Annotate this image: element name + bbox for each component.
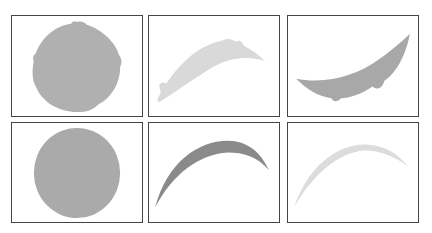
panel-3-rough-bowl xyxy=(287,15,419,117)
panel-1-rough-circle xyxy=(11,15,143,117)
rough-crescent-shape xyxy=(149,16,279,116)
panel-4-smooth-circle xyxy=(11,122,143,223)
rough-bowl-shape xyxy=(288,16,418,116)
rough-circle-shape xyxy=(12,16,142,116)
light-crescent-shape xyxy=(288,123,418,222)
panel-5-dark-crescent xyxy=(148,122,280,223)
dark-crescent-shape xyxy=(149,123,279,222)
panel-2-rough-crescent xyxy=(148,15,280,117)
smooth-circle-shape xyxy=(12,123,142,222)
panel-6-light-crescent xyxy=(287,122,419,223)
